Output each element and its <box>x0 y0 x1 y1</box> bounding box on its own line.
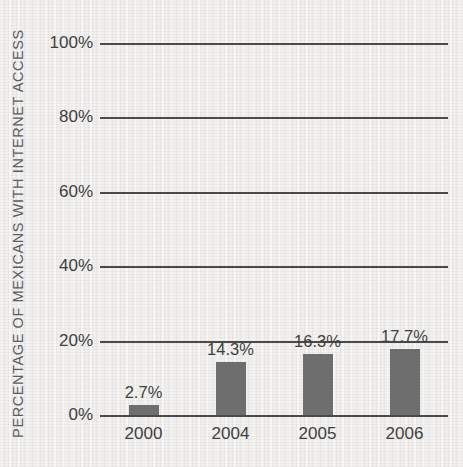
bar <box>303 354 333 415</box>
plot-area: 0%20%40%60%80%100%2.7%14.3%16.3%17.7% <box>100 43 448 415</box>
y-axis-tick-label: 60% <box>59 182 93 202</box>
x-axis-tick-label: 2005 <box>299 424 337 444</box>
y-axis-tick-label: 0% <box>68 405 93 425</box>
y-axis-tick-label: 20% <box>59 331 93 351</box>
x-axis-tick-label: 2000 <box>125 424 163 444</box>
gridline <box>100 43 448 45</box>
y-axis-tick-label: 100% <box>50 33 93 53</box>
bar-value-label: 14.3% <box>207 340 254 359</box>
bar-value-label: 2.7% <box>125 383 163 402</box>
x-axis-baseline <box>100 415 448 417</box>
bar <box>216 362 246 415</box>
bar-value-label: 16.3% <box>294 332 341 351</box>
x-axis-tick-label: 2004 <box>212 424 250 444</box>
gridline <box>100 117 448 119</box>
x-axis-tick-label: 2006 <box>386 424 424 444</box>
y-axis-tick-label: 40% <box>59 256 93 276</box>
gridline <box>100 266 448 268</box>
gridline <box>100 192 448 194</box>
bar <box>390 349 420 415</box>
bar-value-label: 17.7% <box>381 327 428 346</box>
bar <box>129 405 159 415</box>
y-axis-title: PERCENTAGE OF MEXICANS WITH INTERNET ACC… <box>0 0 36 467</box>
y-axis-tick-label: 80% <box>59 107 93 127</box>
bar-chart: PERCENTAGE OF MEXICANS WITH INTERNET ACC… <box>0 0 463 467</box>
